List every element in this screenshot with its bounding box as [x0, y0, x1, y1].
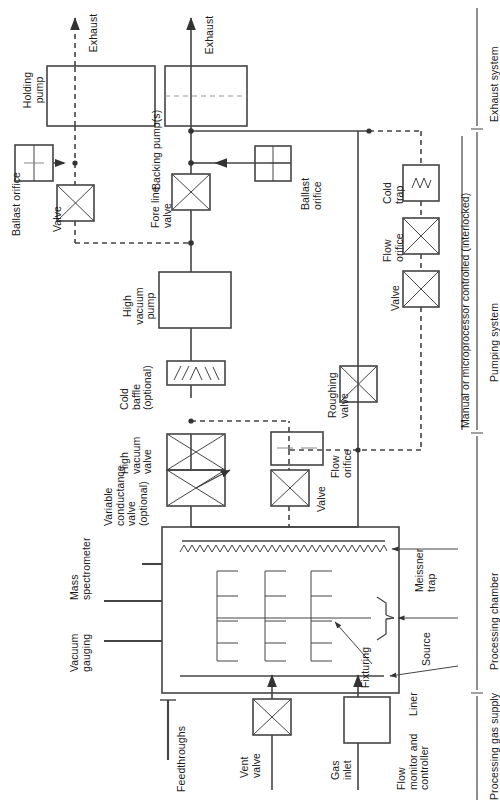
label-flow-orifice-right: Flow orifice [382, 226, 405, 262]
box-holding-pump [47, 66, 155, 126]
label-flow-orifice-mid: Flow orifice [330, 442, 353, 478]
node-baffle-tee [188, 418, 193, 423]
node-right-col-tee [355, 447, 360, 452]
label-gas-inlet: Gas inlet [330, 748, 353, 780]
label-liner: Liner [408, 682, 420, 716]
section-label-pumping-system: Pumping system [488, 252, 500, 382]
section-label-exhaust-system: Exhaust system [488, 6, 500, 122]
feedthrough-stubs [104, 564, 162, 641]
label-backing-pump: Backing pump(s) [151, 90, 163, 190]
section-label-processing-gas-supply: Processing gas supply [488, 640, 500, 800]
label-holding-pump: Holding pump [22, 64, 45, 116]
label-roughing-valve: Roughing valve [327, 366, 350, 418]
label-variable-conductance-valve: Variable conductance valve (optional) [103, 452, 149, 526]
label-exhaust-backing: Exhaust [204, 10, 216, 60]
label-fore-line-valve: Fore line valve [150, 176, 173, 228]
label-valve-right: Valve [390, 277, 402, 311]
label-flow-monitor: Flow monitor and controller [396, 722, 431, 790]
label-vacuum-gauging: Vacuum gauging [69, 610, 92, 672]
label-vent-valve: Vent valve [239, 742, 262, 778]
section-note: Manual or microprocessor controlled (int… [459, 128, 471, 428]
meissner-zigzag [180, 545, 387, 552]
label-exhaust-holding: Exhaust [88, 10, 100, 56]
label-feedthroughs: Feedthroughs [176, 718, 188, 792]
fixturing-group [217, 571, 371, 661]
label-cold-trap: Cold trap [382, 170, 405, 204]
coldtrap-zigzag [412, 178, 431, 188]
source-shape [377, 597, 394, 640]
node-holding-tee [72, 160, 77, 165]
leader-liner [390, 666, 458, 676]
label-mass-spectrometer: Mass spectrometer [69, 534, 92, 600]
label-valve-mid: Valve [316, 478, 328, 512]
label-source: Source [421, 622, 433, 666]
label-ballast-orifice-left: Ballast orifice [11, 152, 23, 236]
node-holdingline-tee [188, 240, 194, 246]
box-high-vacuum-pump [159, 272, 231, 328]
node-right-tee [366, 128, 371, 133]
label-high-vacuum-pump: High vacuum pump [122, 278, 157, 334]
box-cold-trap [403, 165, 439, 201]
node-backing-tee [188, 128, 194, 134]
label-meissner-trap: Meissner trap [414, 536, 437, 592]
label-valve-left: Valve [52, 198, 64, 232]
label-cold-baffle: Cold baffle (optional) [119, 354, 154, 410]
box-flow-monitor [344, 697, 390, 743]
label-ballast-orifice-mid: Ballast orifice [300, 168, 323, 210]
node-ballast-tee [188, 160, 194, 166]
label-fixturing: Fixturing [360, 638, 372, 688]
